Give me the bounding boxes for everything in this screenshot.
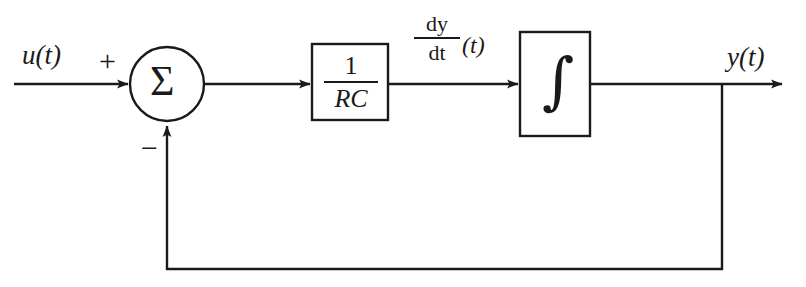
derivative-argument: (t) [462,32,485,59]
derivative-numerator: dy [414,12,460,35]
gain-numerator: 1 [324,52,378,79]
feedback-path [167,84,722,269]
derivative-denominator: dt [414,41,460,64]
gain-denominator: RC [324,85,378,112]
summing-junction-minus-sign: − [141,133,158,163]
diagram-lines [0,0,806,287]
input-signal-label: u(t) [22,42,61,69]
integral-icon: ∫ [542,50,574,112]
derivative-signal-label: dy dt (t) [414,12,485,64]
derivative-fraction: dy dt [414,12,460,64]
sigma-icon: Σ [150,60,174,102]
fraction-bar [324,81,378,83]
summing-junction-plus-sign: + [99,46,116,76]
fraction-bar [414,37,460,39]
block-diagram-canvas: u(t) + − Σ 1 RC dy dt (t) ∫ y(t) [0,0,806,287]
gain-block-label: 1 RC [324,52,378,112]
output-signal-label: y(t) [727,44,764,71]
